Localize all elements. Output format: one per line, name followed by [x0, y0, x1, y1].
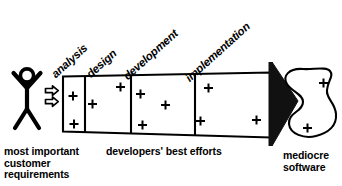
stick-figure-customer-icon	[14, 69, 41, 128]
caption-mediocre-software: mediocre software	[283, 150, 329, 173]
feed-arrow-icon-1	[46, 86, 59, 96]
diagram-canvas: analysis design development implementati…	[0, 0, 342, 186]
caption-customer-requirements: most important customer requirements	[4, 146, 79, 181]
feed-arrow-icon-2	[46, 97, 59, 107]
caption-developers-best-efforts: developers' best efforts	[106, 146, 222, 158]
